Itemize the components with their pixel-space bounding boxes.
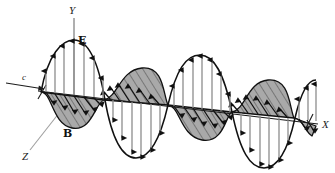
- em-wave-figure: Z Y: [0, 0, 335, 173]
- y-axis-label: Y: [69, 4, 77, 16]
- propagation-label: c: [22, 72, 26, 82]
- magnetic-field-wave: [41, 68, 316, 140]
- y-axis: Y: [69, 4, 77, 96]
- e-field-label: E: [78, 34, 86, 47]
- b-field-label: B: [63, 127, 72, 140]
- propagation-arrow: c: [6, 72, 44, 89]
- x-axis-label: X: [321, 118, 330, 130]
- z-axis-label: Z: [22, 150, 29, 162]
- b-lobe-4: [232, 80, 294, 118]
- em-wave-diagram: Z Y: [0, 0, 335, 173]
